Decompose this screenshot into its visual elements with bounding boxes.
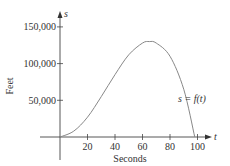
x-tick-label: 100 (190, 141, 205, 152)
data-series-line (60, 41, 195, 137)
y-axis-var: s (64, 8, 68, 19)
y-axis-arrow-icon (58, 11, 63, 18)
x-axis-var: t (214, 131, 217, 142)
y-axis-label: Feet (4, 77, 15, 94)
x-tick-label: 80 (165, 141, 175, 152)
y-tick-label: 100,000 (24, 58, 57, 69)
x-tick-label: 20 (83, 141, 93, 152)
curve-annotation: s = f(t) (178, 93, 207, 105)
y-tick-label: 50,000 (29, 95, 57, 106)
chart: 20406080100 50,000100,000150,000 t s Sec… (0, 0, 230, 166)
x-axis-arrow-icon (205, 135, 212, 140)
x-axis-label: Seconds (113, 153, 146, 164)
x-tick-label: 60 (138, 141, 148, 152)
x-tick-label: 40 (110, 141, 120, 152)
y-ticks: 50,000100,000150,000 (24, 21, 64, 105)
y-tick-label: 150,000 (24, 21, 57, 32)
